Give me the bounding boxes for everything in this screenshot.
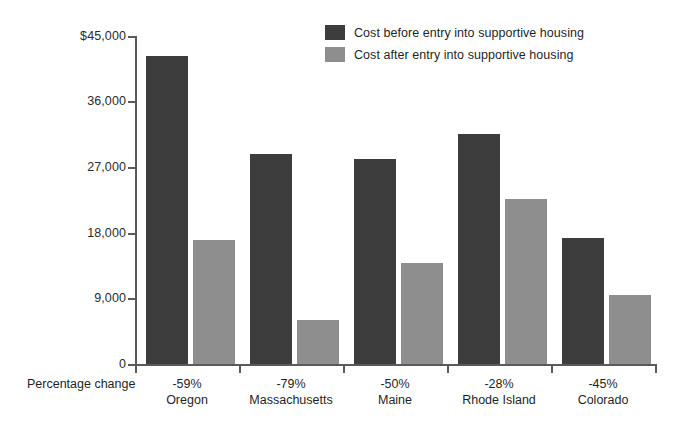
- category-name-massachusetts: Massachusetts: [241, 393, 341, 409]
- x-axis-caption: Percentage change: [27, 377, 135, 391]
- bar-massachusetts-after: [297, 320, 339, 364]
- category-label-colorado: -45% Colorado: [553, 377, 653, 408]
- y-axis-labels: $45,000 36,000 27,000 18,000 9,000 0: [34, 0, 126, 439]
- bar-oregon-after: [193, 240, 235, 364]
- bar-massachusetts-before: [250, 154, 292, 364]
- category-name-oregon: Oregon: [137, 393, 237, 409]
- category-pct-massachusetts: -79%: [241, 377, 341, 393]
- category-pct-rhode-island: -28%: [449, 377, 549, 393]
- bar-colorado-after: [609, 295, 651, 364]
- category-name-maine: Maine: [345, 393, 445, 409]
- x-tick-3: [447, 364, 449, 373]
- bar-maine-after: [401, 263, 443, 364]
- y-label-0: 0: [40, 357, 126, 371]
- x-tick-0: [135, 364, 137, 373]
- category-pct-oregon: -59%: [137, 377, 237, 393]
- category-name-colorado: Colorado: [553, 393, 653, 409]
- category-label-maine: -50% Maine: [345, 377, 445, 408]
- category-pct-colorado: -45%: [553, 377, 653, 393]
- y-label-9000: 9,000: [40, 291, 126, 305]
- bar-colorado-before: [562, 238, 604, 364]
- bar-oregon-before: [146, 56, 188, 364]
- bar-rhode-island-after: [505, 199, 547, 365]
- bar-maine-before: [354, 159, 396, 364]
- bar-chart: Cost before entry into supportive housin…: [0, 0, 675, 439]
- category-name-rhode-island: Rhode Island: [449, 393, 549, 409]
- x-axis-line: [135, 364, 657, 366]
- y-label-18000: 18,000: [40, 226, 126, 240]
- x-tick-5: [655, 364, 657, 373]
- category-pct-maine: -50%: [345, 377, 445, 393]
- x-tick-4: [551, 364, 553, 373]
- category-label-massachusetts: -79% Massachusetts: [241, 377, 341, 408]
- category-label-rhode-island: -28% Rhode Island: [449, 377, 549, 408]
- y-label-45000: $45,000: [40, 29, 126, 43]
- category-label-oregon: -59% Oregon: [137, 377, 237, 408]
- bar-rhode-island-before: [458, 134, 500, 364]
- y-label-36000: 36,000: [40, 94, 126, 108]
- x-tick-2: [343, 364, 345, 373]
- x-tick-1: [239, 364, 241, 373]
- y-label-27000: 27,000: [40, 160, 126, 174]
- plot-area: [136, 30, 655, 364]
